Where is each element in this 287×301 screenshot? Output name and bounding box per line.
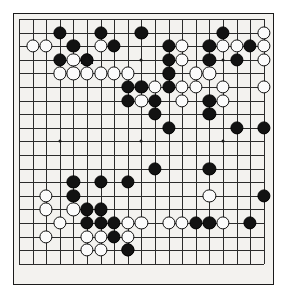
go-diagram-container: triangle-marked white stone bbox=[0, 0, 287, 301]
go-board-panel bbox=[13, 13, 274, 285]
